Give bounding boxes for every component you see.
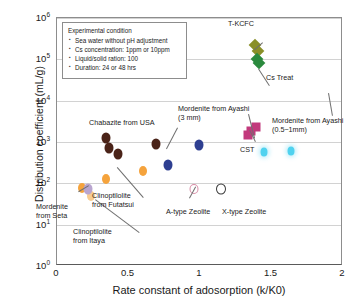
annotation-mordenite-3mm: Mordenite from Ayashi (3 mm): [178, 105, 249, 123]
y-tick-label: 106: [36, 12, 50, 23]
leader-line: [328, 93, 333, 116]
annotation-clino-itaya: Clinoptilolite from Itaya: [73, 228, 112, 246]
y-tick-label: 105: [36, 53, 50, 64]
y-axis-tick-labels: 100101102103104105106: [0, 0, 54, 308]
data-point-x-type-zeolite: [216, 183, 226, 194]
gridline: [57, 225, 341, 226]
x-axis-title: Rate constant of adosorption (k/K0): [56, 284, 342, 296]
y-tick-label: 102: [36, 177, 50, 188]
x-tick-label: 0.5: [121, 268, 134, 278]
data-point-chabazite-from-usa: [105, 143, 114, 154]
data-point-mordenite-from-ayashi-3-mm: [163, 159, 172, 170]
annotation-cs-treat: Cs Treat: [266, 74, 293, 83]
data-point-mordenite-from-ayashi-0-5-1mm: [260, 148, 267, 157]
x-tick-label: 2: [339, 268, 344, 278]
leader-line: [166, 128, 178, 149]
annotation-clino-futatsui: Clinoptilolite from Futatsui: [92, 192, 134, 210]
data-point-chabazite-from-usa: [113, 149, 122, 160]
condition-item: Liquid/solid ration: 100: [75, 55, 181, 64]
experimental-condition-box: Experimental condition Sea water without…: [62, 22, 187, 79]
y-tick-label: 104: [36, 95, 50, 106]
condition-item: Duration: 24 or 48 hrs: [75, 64, 181, 73]
y-tick-label: 100: [36, 260, 50, 271]
gridline: [57, 101, 341, 102]
annotation-t-kcfc: T-KCFC: [228, 20, 254, 29]
annotation-x-type: X-type Zeolite: [222, 208, 266, 217]
condition-box-title: Experimental condition: [68, 27, 181, 36]
data-point-clinoptilolite-from-futatsui: [139, 166, 147, 176]
gridline: [57, 183, 341, 184]
annotation-chabazite: Chabazite from USA: [89, 119, 155, 128]
condition-list: Sea water without pH adjustmentCs concen…: [68, 37, 181, 73]
x-tick-label: 1.5: [264, 268, 277, 278]
gridline: [57, 18, 341, 19]
x-tick-label: 0: [53, 268, 58, 278]
data-point-mordenite-from-ayashi-3-mm: [194, 139, 203, 150]
data-point-chabazite-from-usa: [102, 133, 111, 144]
condition-item: Sea water without pH adjustment: [75, 37, 181, 46]
annotation-mordenite-seta: Mordenite from Seta: [36, 203, 68, 221]
data-point-chabazite-from-usa: [152, 139, 161, 150]
figure-scatter-plot: Distribution coefficient (mL/g) 10010110…: [0, 0, 358, 308]
annotation-mordenite-05: Mordenite from Ayashi (0.5~1mm): [272, 117, 343, 135]
y-tick-label: 103: [36, 136, 50, 147]
data-point-clinoptilolite-from-futatsui: [102, 174, 110, 184]
annotation-cst: CST: [240, 146, 254, 155]
annotation-a-type: A-type Zeolite: [166, 208, 210, 217]
x-tick-label: 1: [196, 268, 201, 278]
condition-item: Cs concentration: 1ppm or 10ppm: [75, 46, 181, 55]
data-point-mordenite-from-ayashi-0-5-1mm: [287, 146, 294, 155]
